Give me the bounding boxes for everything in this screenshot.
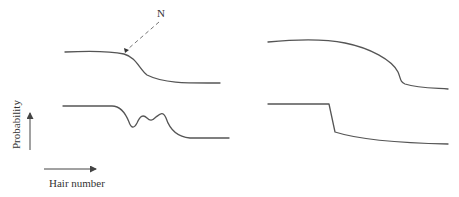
annotation-n-label: N	[157, 7, 165, 19]
x-axis-label: Hair number	[49, 177, 105, 189]
curve-bottom-left	[63, 106, 229, 138]
curve-top-left	[65, 51, 220, 83]
y-axis-label: Probability	[10, 100, 22, 149]
pointer-n-line	[128, 22, 159, 49]
diagram-canvas: N Probability Hair number	[0, 0, 459, 197]
curve-top-right	[268, 40, 448, 89]
pointer-n-arrowhead-icon	[124, 48, 129, 53]
curve-bottom-right	[268, 104, 448, 144]
